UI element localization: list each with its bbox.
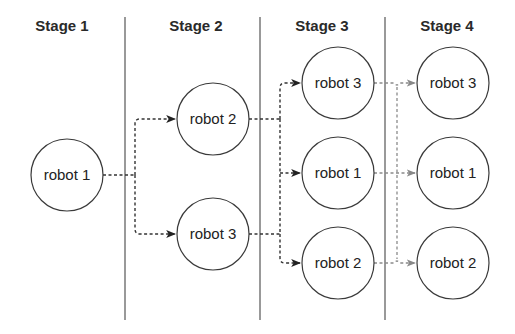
node-label: robot 2 <box>430 254 477 271</box>
node-label: robot 1 <box>430 164 477 181</box>
node-s4-robot3: robot 3 <box>417 47 489 119</box>
stage-flow-diagram: Stage 1 Stage 2 Stage 3 Stage 4 robot 1 … <box>0 0 515 334</box>
edge-to-s2-robot3 <box>135 175 175 234</box>
edge-to-s3-robot1 <box>280 119 300 234</box>
node-s2-robot3: robot 3 <box>177 198 249 270</box>
node-s4-robot2: robot 2 <box>417 227 489 299</box>
edge-to-s2-robot2 <box>135 119 175 175</box>
edges-stage1-to-stage2 <box>103 119 175 234</box>
edges-stage2-to-stage3 <box>249 83 300 263</box>
edge-to-s3-robot2 <box>280 234 300 263</box>
edges-stage3-to-stage4 <box>374 83 415 263</box>
stage-2-label: Stage 2 <box>169 17 222 34</box>
stage-3-label: Stage 3 <box>295 17 348 34</box>
edge-s3-robot3-to-s4-robot3 <box>374 83 415 85</box>
node-label: robot 3 <box>430 74 477 91</box>
node-s3-robot1: robot 1 <box>302 137 374 209</box>
node-label: robot 2 <box>190 110 237 127</box>
node-s3-robot3: robot 3 <box>302 47 374 119</box>
edge-s3-robot2-to-s4-robot2 <box>374 261 415 263</box>
stage-1-label: Stage 1 <box>35 17 88 34</box>
node-label: robot 3 <box>315 74 362 91</box>
node-s4-robot1: robot 1 <box>417 137 489 209</box>
edge-to-s3-robot3 <box>280 83 300 119</box>
node-s3-robot2: robot 2 <box>302 227 374 299</box>
node-s2-robot2: robot 2 <box>177 83 249 155</box>
node-label: robot 3 <box>190 225 237 242</box>
stage-4-label: Stage 4 <box>420 17 474 34</box>
node-label: robot 2 <box>315 254 362 271</box>
node-label: robot 1 <box>315 164 362 181</box>
node-label: robot 1 <box>44 166 91 183</box>
node-s1-robot1: robot 1 <box>31 139 103 211</box>
